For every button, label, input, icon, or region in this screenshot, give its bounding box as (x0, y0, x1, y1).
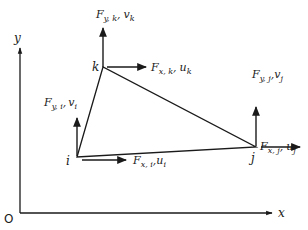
node-j-label: j (248, 151, 255, 165)
force-x-k-label: Fx, k,uk (150, 61, 192, 76)
node-k: k Fy, k,vk Fx, k,uk (92, 8, 192, 76)
node-i: i Fy, i,vi Fx, i,ui (43, 96, 166, 169)
origin-label: O (4, 212, 13, 226)
x-axis-label: x (278, 206, 285, 220)
y-axis-label: y (13, 31, 21, 45)
force-y-j-label: Fy, j,vj (251, 68, 283, 83)
triangle-element (77, 67, 256, 157)
force-x-j-label: Fx, j,uj (259, 140, 296, 155)
coordinate-axes: y x O (4, 31, 285, 226)
node-k-label: k (92, 60, 99, 74)
force-y-k-label: Fy, k,vk (95, 8, 135, 23)
element-diagram: y x O k Fy, k,vk Fx, k,uk j Fy, j,vj Fx,… (0, 0, 308, 230)
node-i-label: i (66, 154, 70, 168)
node-j: j Fy, j,vj Fx, j,uj (248, 68, 300, 165)
force-y-i-label: Fy, i,vi (43, 96, 77, 111)
force-x-i-label: Fx, i,ui (132, 154, 166, 169)
